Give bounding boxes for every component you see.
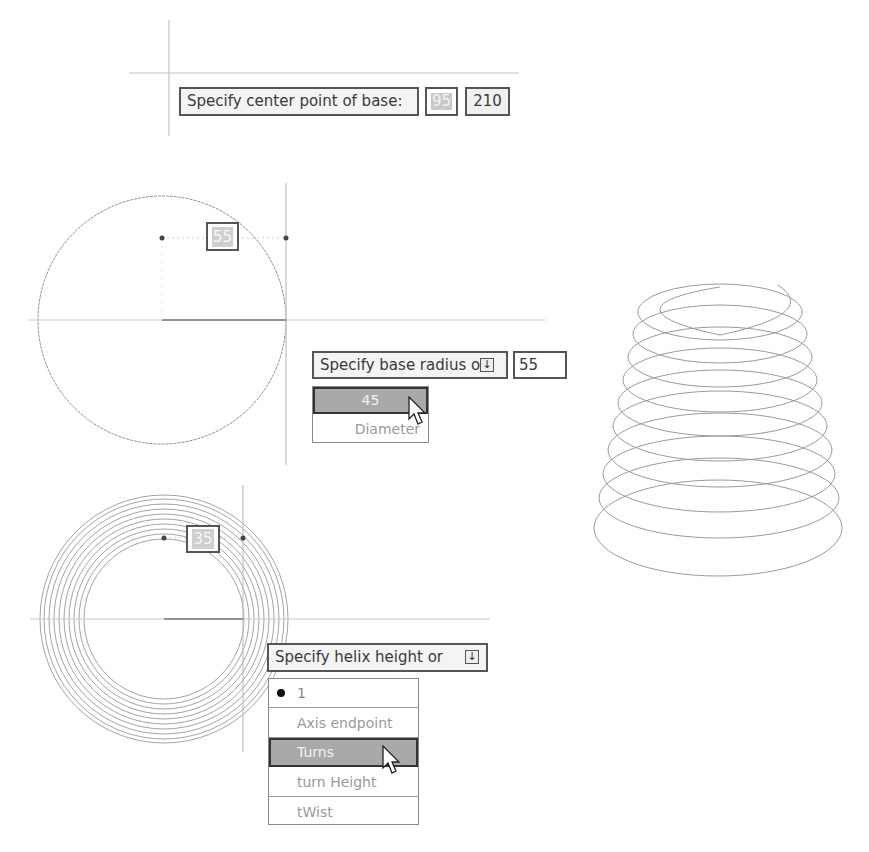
helix-3d-view (594, 284, 842, 576)
option-axis-endpoint[interactable]: Axis endpoint (269, 708, 418, 738)
base-circle-preview (28, 183, 545, 465)
dimension-endpoint (284, 236, 289, 241)
option-label: Turns (297, 744, 334, 760)
y-coordinate-value: 210 (473, 94, 502, 109)
dimension-endpoint (162, 536, 167, 541)
mouse-pointer-icon (382, 745, 404, 777)
x-coordinate-value: 95 (431, 93, 452, 110)
down-arrow-icon[interactable]: ↓ (465, 650, 479, 664)
helix-radius-dimension-value: 35 (192, 529, 213, 549)
option-label: Axis endpoint (297, 715, 393, 731)
helix-height-prompt-label: Specify helix height or (275, 650, 443, 665)
base-radius-value: 55 (519, 358, 538, 373)
radius-dimension-value: 55 (212, 227, 233, 247)
option-label: turn Height (297, 774, 376, 790)
option-label: tWist (297, 804, 333, 820)
drawing-canvas[interactable] (0, 0, 869, 852)
base-radius-input[interactable]: 55 (513, 351, 567, 379)
helix-radius-dimension-input[interactable]: 35 (186, 525, 220, 553)
option-1[interactable]: 1 (269, 679, 418, 708)
base-radius-prompt-label: Specify base radius or (320, 358, 486, 373)
down-arrow-icon[interactable]: ↓ (480, 358, 494, 372)
bullet-icon (277, 689, 285, 697)
y-coordinate-input[interactable]: 210 (465, 87, 510, 116)
option-label: 1 (297, 685, 306, 701)
option-twist[interactable]: tWist (269, 797, 418, 826)
x-coordinate-input[interactable]: 95 (425, 87, 458, 116)
crosshair-step3 (30, 485, 490, 752)
dimension-endpoint (160, 236, 165, 241)
radius-dimension-input[interactable]: 55 (206, 222, 239, 251)
option-label: 45 (362, 392, 380, 408)
dimension-endpoint (241, 536, 246, 541)
mouse-pointer-icon (408, 396, 430, 428)
base-radius-prompt: Specify base radius or (312, 351, 508, 379)
center-point-prompt-label: Specify center point of base: (187, 94, 402, 109)
helix-height-prompt: Specify helix height or (267, 643, 488, 672)
crosshair-step1 (129, 20, 519, 136)
center-point-prompt: Specify center point of base: (179, 87, 419, 116)
